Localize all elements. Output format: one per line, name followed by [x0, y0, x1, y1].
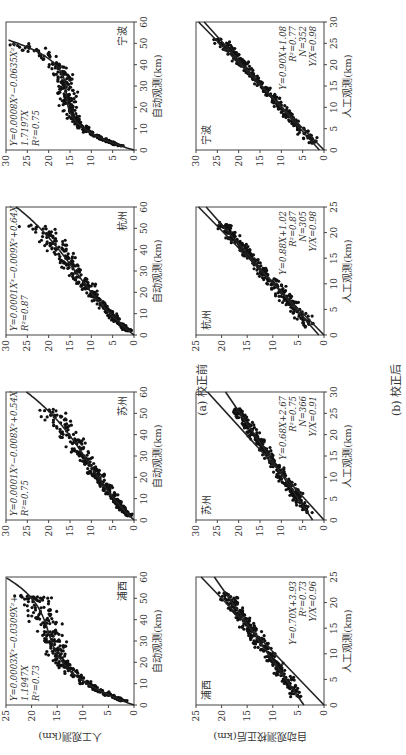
x-tick-label: 20: [139, 471, 149, 483]
x-tick-label: 60: [139, 386, 149, 398]
x-tick-label: 5: [329, 126, 339, 132]
y-tick-label: 10: [86, 340, 96, 352]
x-tick-label: 10: [139, 123, 149, 135]
x-tick-label: 0: [139, 332, 149, 338]
fit-annotation: Y=0.70X+3.93R²=0.73Y/X=0.96: [288, 580, 318, 644]
x-axis-label: 人工观测(km): [341, 54, 353, 117]
chart-panel-a-4: 0102030405060051015202530自动观测(km)Y=0.000…: [1, 16, 163, 166]
chart-panel-b-2: 051015202530051015202530人工观测(km)Y=0.68X+…: [191, 386, 353, 536]
svg-text:Y=0.0003X³−0.0309X²+: Y=0.0003X³−0.0309X²+: [9, 596, 19, 701]
y-tick-label: 10: [268, 710, 278, 722]
x-tick-label: 5: [329, 496, 339, 502]
caption-a: (a) 校正前: [195, 364, 209, 416]
caption-b: (b) 校正后: [389, 364, 403, 416]
y-tick-label: 0: [129, 710, 139, 716]
svg-text:Y/X=0.98: Y/X=0.98: [308, 210, 318, 251]
y-tick-label: 10: [86, 525, 96, 537]
x-axis-label: 人工观测(km): [341, 424, 353, 487]
x-tick-label: 10: [139, 678, 149, 690]
y-tick-label: 15: [242, 710, 252, 722]
fit-annotation: Y=0.0003X³−0.0309X²+1.1947XR²=0.73: [9, 596, 41, 702]
x-tick-label: 0: [329, 332, 339, 338]
svg-text:R²=0.75: R²=0.75: [20, 480, 30, 517]
station-label: 杭州: [200, 310, 212, 330]
station-label: 宁波: [116, 26, 128, 46]
svg-text:1.1947X: 1.1947X: [20, 664, 30, 701]
x-axis-label: 人工观测(km): [341, 609, 353, 672]
x-tick-label: 60: [139, 201, 149, 213]
x-tick-label: 40: [139, 614, 149, 626]
y-tick-label: 25: [212, 155, 222, 167]
svg-text:R²=0.77: R²=0.77: [288, 25, 298, 62]
y-tick-label: 30: [191, 155, 201, 167]
x-tick-label: 5: [329, 676, 339, 682]
svg-text:Y/X=0.91: Y/X=0.91: [308, 396, 318, 437]
svg-text:Y=0.0001X³−0.009X²+0.64X: Y=0.0001X³−0.009X²+0.64X: [9, 205, 19, 331]
svg-text:N=305: N=305: [298, 211, 308, 243]
y-tick-label: 5: [103, 710, 113, 716]
svg-text:R²=0.75: R²=0.75: [288, 396, 298, 433]
x-tick-label: 20: [329, 59, 339, 71]
y-tick-label: 0: [319, 155, 329, 161]
x-tick-label: 15: [329, 252, 339, 264]
y-tick-label: 20: [234, 155, 244, 167]
x-tick-label: 10: [329, 101, 339, 113]
y-tick-label: 15: [65, 155, 75, 167]
svg-text:R²=0.73: R²=0.73: [298, 581, 308, 618]
y-tick-label: 25: [22, 525, 32, 537]
y-tick-label: 30: [191, 525, 201, 537]
svg-text:R²=0.87: R²=0.87: [288, 210, 298, 247]
svg-text:Y/X=0.98: Y/X=0.98: [308, 25, 318, 66]
y-tick-label: 10: [268, 340, 278, 352]
x-tick-label: 40: [139, 244, 149, 256]
x-tick-label: 0: [329, 702, 339, 708]
x-tick-label: 25: [329, 571, 339, 583]
x-tick-label: 5: [329, 306, 339, 312]
x-tick-label: 60: [139, 16, 149, 28]
scatter-points: [38, 408, 133, 518]
x-tick-label: 20: [329, 597, 339, 609]
y-tick-label: 25: [191, 710, 201, 722]
y-tick-label: 20: [217, 340, 227, 352]
x-tick-label: 10: [139, 308, 149, 320]
y-axis-label: 自动观测校正后(km): [213, 731, 306, 743]
svg-text:Y=0.68X+2.67: Y=0.68X+2.67: [278, 395, 288, 459]
svg-text:R²=0.87: R²=0.87: [20, 295, 30, 332]
x-tick-label: 25: [329, 407, 339, 419]
y-tick-label: 20: [44, 155, 54, 167]
x-tick-label: 30: [139, 635, 149, 647]
x-tick-label: 50: [139, 37, 149, 49]
svg-text:Y=0.70X+3.93: Y=0.70X+3.93: [288, 581, 298, 645]
station-label: 浦西: [116, 581, 128, 601]
svg-text:R²=0.75: R²=0.75: [31, 110, 41, 147]
x-tick-label: 30: [329, 386, 339, 398]
x-tick-label: 20: [329, 429, 339, 441]
y-tick-label: 0: [319, 340, 329, 346]
y-tick-label: 5: [108, 155, 118, 161]
fit-annotation: Y=0.90X+1.08R²=0.77N=352Y/X=0.98: [278, 25, 318, 89]
y-tick-label: 30: [1, 340, 11, 352]
y-tick-label: 10: [276, 525, 286, 537]
station-label: 浦西: [200, 680, 212, 700]
y-tick-label: 15: [52, 710, 62, 722]
x-tick-label: 25: [329, 37, 339, 49]
y-tick-label: 15: [255, 525, 265, 537]
x-tick-label: 50: [139, 407, 149, 419]
panels-group: 01020304050600510152025自动观测(km)人工观测(km)Y…: [1, 16, 353, 743]
x-tick-label: 0: [329, 517, 339, 523]
chart-panel-a-1: 01020304050600510152025自动观测(km)人工观测(km)Y…: [1, 571, 163, 743]
fit-annotation: Y=0.0001X³−0.008X²+0.54XR²=0.75: [9, 390, 30, 517]
y-tick-label: 30: [1, 155, 11, 167]
y-tick-label: 25: [191, 340, 201, 352]
x-tick-label: 50: [139, 222, 149, 234]
x-axis-label: 自动观测(km): [151, 239, 163, 302]
svg-text:N=366: N=366: [298, 395, 308, 427]
x-tick-label: 50: [139, 592, 149, 604]
x-tick-label: 10: [329, 648, 339, 660]
y-tick-label: 30: [1, 525, 11, 537]
y-tick-label: 5: [293, 340, 303, 346]
svg-text:R²=0.73: R²=0.73: [31, 665, 41, 702]
x-tick-label: 25: [329, 201, 339, 213]
y-tick-label: 5: [298, 155, 308, 161]
fit-annotation: Y=0.0008X³−0.0635X²+1.7197XR²=0.75: [9, 41, 41, 147]
